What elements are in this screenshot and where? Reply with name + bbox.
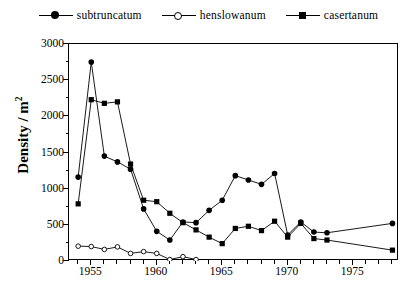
x-axis-tick-label: 1955 xyxy=(79,265,102,277)
data-point xyxy=(311,229,317,235)
data-point xyxy=(76,244,81,249)
data-point xyxy=(181,254,186,259)
data-point xyxy=(141,249,146,254)
series-henslowanum xyxy=(76,244,198,261)
data-point xyxy=(154,199,159,204)
legend-label-henslowanum: henslowanum xyxy=(200,9,266,21)
data-point xyxy=(141,206,147,212)
data-series-canvas xyxy=(69,44,399,261)
data-point xyxy=(193,220,199,226)
open-circle-icon xyxy=(162,10,196,20)
data-point xyxy=(154,251,159,256)
y-axis-tick-label: 2000 xyxy=(8,109,64,121)
series-line xyxy=(78,62,392,240)
data-point xyxy=(272,219,277,224)
x-axis-tick-label: 1970 xyxy=(275,265,298,277)
data-point xyxy=(89,244,94,249)
data-point xyxy=(311,236,316,241)
y-axis-tick-label: 1000 xyxy=(8,182,64,194)
data-point xyxy=(220,241,225,246)
data-point xyxy=(219,197,225,203)
data-point xyxy=(324,230,330,236)
data-point xyxy=(259,228,264,233)
y-axis-tick-label: 2500 xyxy=(8,73,64,85)
data-point xyxy=(272,171,278,177)
data-point xyxy=(76,201,81,206)
legend-item-henslowanum: henslowanum xyxy=(162,9,266,21)
x-axis-tick-label: 1960 xyxy=(144,265,167,277)
data-point xyxy=(206,208,212,214)
data-point xyxy=(246,224,251,229)
legend-label-subtruncatum: subtruncatum xyxy=(77,9,142,21)
data-point xyxy=(102,153,108,159)
data-point xyxy=(207,235,212,240)
legend-item-casertanum: casertanum xyxy=(286,9,378,21)
chart-figure: subtruncatum henslowanum casertanum Dens… xyxy=(0,0,417,284)
y-axis-tick-label: 3000 xyxy=(8,37,64,49)
plot-area xyxy=(68,43,398,260)
data-point xyxy=(128,161,133,166)
data-point xyxy=(115,245,120,250)
data-point xyxy=(168,257,173,261)
data-point xyxy=(324,237,329,242)
series-subtruncatum xyxy=(75,59,395,243)
data-point xyxy=(75,174,81,180)
y-axis-labels: 300025002000150010005000 xyxy=(0,0,64,284)
data-point xyxy=(285,235,290,240)
y-axis-tick-label: 1500 xyxy=(8,146,64,158)
data-point xyxy=(154,229,160,235)
data-point xyxy=(233,173,239,179)
data-point xyxy=(128,251,133,256)
data-point xyxy=(298,221,303,226)
data-point xyxy=(246,177,252,183)
series-line xyxy=(78,246,196,259)
x-axis-tick-label: 1965 xyxy=(210,265,233,277)
data-point xyxy=(88,59,94,65)
data-point xyxy=(102,247,107,252)
y-axis-tick-label: 0 xyxy=(8,254,64,266)
data-point xyxy=(102,101,107,106)
data-point xyxy=(390,221,396,227)
x-axis-tick-label: 1975 xyxy=(341,265,364,277)
data-point xyxy=(115,99,120,104)
data-point xyxy=(115,159,121,165)
data-point xyxy=(390,248,395,253)
legend-label-casertanum: casertanum xyxy=(324,9,378,21)
data-point xyxy=(89,97,94,102)
data-point xyxy=(193,227,198,232)
data-point xyxy=(180,220,185,225)
data-point xyxy=(141,198,146,203)
data-point xyxy=(167,211,172,216)
data-point xyxy=(194,257,199,261)
y-axis-tick-label: 500 xyxy=(8,218,64,230)
filled-square-icon xyxy=(286,10,320,20)
data-point xyxy=(167,237,173,243)
data-point xyxy=(233,226,238,231)
data-point xyxy=(259,182,265,188)
